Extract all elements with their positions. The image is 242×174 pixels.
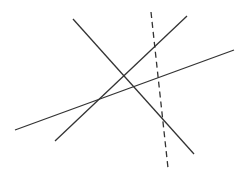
solid-line-ascending-steep	[55, 16, 187, 141]
dashed-line-vertical	[151, 12, 168, 168]
line-diagram	[0, 0, 242, 174]
solid-line-ascending-shallow	[15, 50, 234, 130]
